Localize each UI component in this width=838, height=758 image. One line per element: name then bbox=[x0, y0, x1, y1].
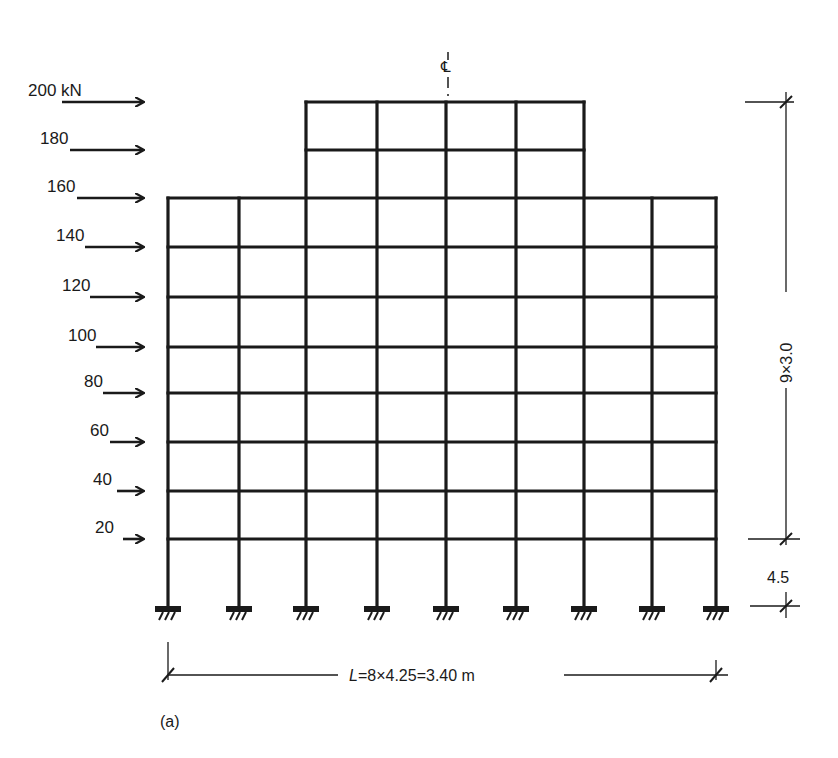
structural-frame-diagram: 200 kN18016014012010080604020 ℄ 9×3.0 4.… bbox=[0, 0, 838, 758]
fixed-support-icon bbox=[503, 606, 529, 620]
centerline-marker: ℄ bbox=[440, 52, 451, 96]
fixed-support-icon bbox=[293, 606, 319, 620]
load-arrow-80: 80 bbox=[84, 372, 143, 393]
fixed-support-icon bbox=[226, 606, 252, 620]
span-value: =8×4.25=3.40 m bbox=[358, 667, 475, 684]
upper-height-label: 9×3.0 bbox=[778, 342, 795, 383]
load-arrow-60: 60 bbox=[90, 421, 143, 442]
fixed-support-icon bbox=[433, 606, 459, 620]
load-label: 180 bbox=[40, 129, 68, 148]
figure-caption: (a) bbox=[160, 713, 180, 730]
load-label: 140 bbox=[56, 226, 84, 245]
span-symbol: L bbox=[349, 667, 358, 684]
fixed-support-icon bbox=[703, 606, 729, 620]
load-label: 60 bbox=[90, 421, 109, 440]
load-label: 120 bbox=[62, 276, 90, 295]
lateral-loads: 200 kN18016014012010080604020 bbox=[28, 81, 143, 539]
fixed-support-icon bbox=[155, 606, 181, 620]
load-arrow-40: 40 bbox=[93, 470, 143, 491]
load-arrow-120: 120 bbox=[62, 276, 143, 297]
centerline-symbol-icon: ℄ bbox=[440, 58, 451, 75]
load-label: 20 bbox=[95, 518, 114, 537]
load-label: 80 bbox=[84, 372, 103, 391]
span-label: L=8×4.25=3.40 m bbox=[349, 667, 475, 684]
fixed-support-icon bbox=[571, 606, 597, 620]
load-arrow-100: 100 bbox=[68, 326, 143, 347]
load-label: 200 kN bbox=[28, 81, 82, 100]
load-arrow-200: 200 kN bbox=[28, 81, 143, 102]
load-arrow-180: 180 bbox=[40, 129, 143, 150]
load-arrow-160: 160 bbox=[47, 177, 143, 198]
load-label: 40 bbox=[93, 470, 112, 489]
load-arrow-140: 140 bbox=[56, 226, 143, 247]
fixed-support-icon bbox=[364, 606, 390, 620]
load-label: 100 bbox=[68, 326, 96, 345]
load-arrow-20: 20 bbox=[95, 518, 143, 539]
fixed-supports bbox=[155, 606, 729, 620]
fixed-support-icon bbox=[639, 606, 665, 620]
load-label: 160 bbox=[47, 177, 75, 196]
building-frame bbox=[168, 102, 716, 606]
ground-story-label: 4.5 bbox=[767, 569, 789, 586]
